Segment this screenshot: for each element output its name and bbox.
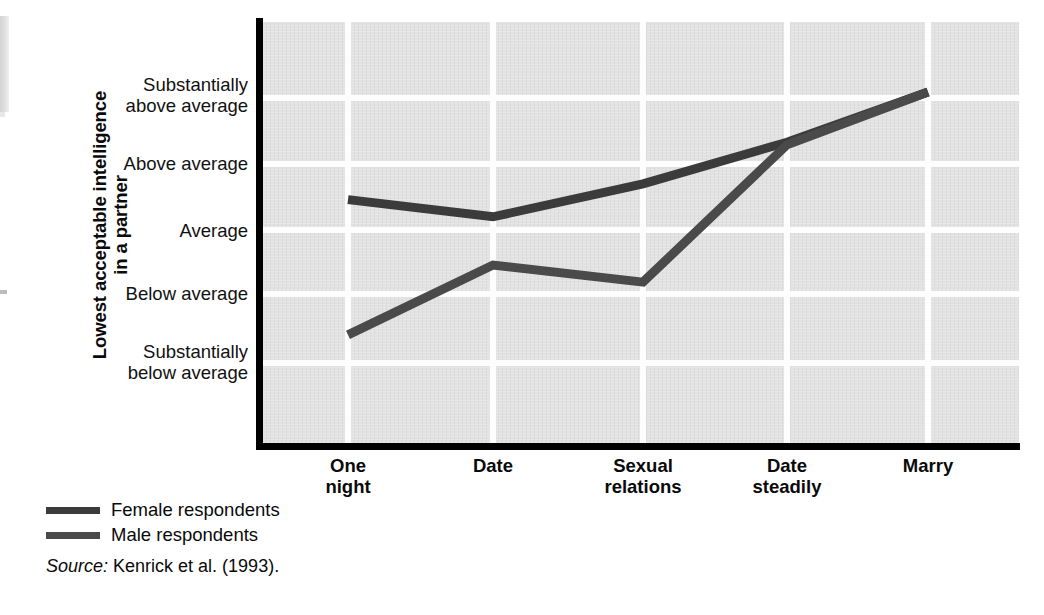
x-tick-line-2: relations xyxy=(604,476,681,497)
legend-label-female: Female respondents xyxy=(111,501,280,520)
scan-artifact-left xyxy=(0,16,9,112)
gridline-vertical-date-steadily xyxy=(784,22,790,443)
legend-swatch-female-icon xyxy=(46,507,100,514)
legend-item-male: Male respondents xyxy=(46,523,466,548)
y-tick-label-below-average: Below average xyxy=(18,283,248,304)
y-axis-line xyxy=(256,18,263,450)
y-tick-line-1: Substantially xyxy=(143,341,248,362)
y-tick-line-1: Substantially xyxy=(143,74,248,95)
source-note: Source: Kenrick et al. (1993). xyxy=(46,556,279,577)
y-tick-label-substantially-below-average: Substantially below average xyxy=(18,341,248,384)
x-tick-label-date: Date xyxy=(408,455,578,476)
legend-label-male: Male respondents xyxy=(111,526,258,545)
y-tick-label-average: Average xyxy=(18,220,248,241)
gridline-vertical-sexual-relations xyxy=(640,22,646,443)
x-tick-label-marry: Marry xyxy=(843,455,1013,476)
y-tick-line-1: Below average xyxy=(126,283,248,304)
figure-chart: Lowest acceptable intelligence in a part… xyxy=(0,0,1044,615)
legend: Female respondents Male respondents xyxy=(46,498,466,548)
legend-swatch-male-icon xyxy=(46,532,100,539)
gridline-vertical-date xyxy=(490,22,496,443)
x-tick-line-2: steadily xyxy=(753,476,822,497)
source-prefix: Source: xyxy=(46,556,108,576)
x-tick-line-1: Date xyxy=(767,455,807,476)
y-tick-line-2: above average xyxy=(126,95,248,116)
x-tick-line-1: Sexual xyxy=(613,455,673,476)
scan-artifact-left-small xyxy=(0,112,5,117)
scan-artifact-tick xyxy=(0,290,7,294)
x-tick-line-1: Date xyxy=(473,455,513,476)
y-tick-line-1: Average xyxy=(179,220,248,241)
x-tick-line-2: night xyxy=(325,476,370,497)
gridline-vertical-marry xyxy=(925,22,931,443)
y-tick-label-substantially-above-average: Substantially above average xyxy=(18,74,248,117)
x-axis-line xyxy=(256,443,1020,450)
y-tick-label-above-average: Above average xyxy=(18,153,248,174)
source-citation: Kenrick et al. (1993). xyxy=(113,556,279,576)
gridline-vertical-one-night xyxy=(345,22,351,443)
x-tick-line-1: Marry xyxy=(903,455,953,476)
x-tick-line-1: One xyxy=(330,455,366,476)
y-tick-line-2: below average xyxy=(128,362,248,383)
legend-item-female: Female respondents xyxy=(46,498,466,523)
plot-area xyxy=(262,22,1019,443)
y-tick-line-1: Above average xyxy=(124,153,248,174)
